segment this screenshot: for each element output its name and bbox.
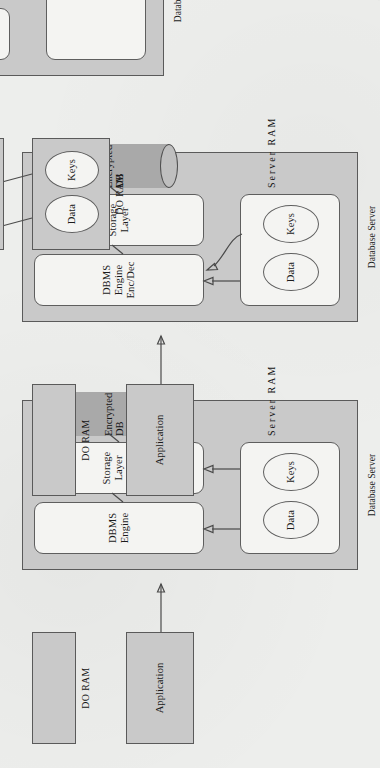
connector-data-to-application-c xyxy=(0,214,36,230)
application-box-c: Application Enc/Dec xyxy=(0,138,4,250)
panel-application-level: Data Keys DO RAM Application Enc/Dec xyxy=(14,16,366,256)
application-label-a: Application xyxy=(154,633,166,743)
do-ram-label-c: DO RAM xyxy=(114,138,125,250)
panel-database-level: DO RAM Application DBMS Engine Enc/Dec S… xyxy=(14,266,366,502)
connector-ram-to-engine-a xyxy=(204,524,242,534)
ram-oval-data-b: Data xyxy=(263,253,319,291)
dbms-engine-label-a: DBMS Engine xyxy=(107,503,131,553)
dbms-engine-box-c: DBMS Engine xyxy=(0,8,10,60)
ram-oval-data-label-a: Data xyxy=(285,502,297,538)
database-server-label-b: Database Server xyxy=(366,152,377,322)
do-ram-label-b: DO RAM xyxy=(80,384,91,496)
do-ram-box-b xyxy=(32,384,76,496)
connector-app-to-server-b xyxy=(152,322,170,384)
ram-oval-data-label-b: Data xyxy=(285,254,297,290)
do-ram-label-a: DO RAM xyxy=(80,632,91,744)
do-ram-oval-data-c: Data xyxy=(45,195,99,233)
dbms-engine-sub-b: Enc/Dec xyxy=(125,262,136,299)
application-box-a: Application xyxy=(126,632,194,744)
do-ram-box-a xyxy=(32,632,76,744)
dbms-engine-box-b: DBMS Engine Enc/Dec xyxy=(34,254,204,306)
server-ram-box-c xyxy=(46,0,146,60)
ram-oval-data-a: Data xyxy=(263,501,319,539)
dbms-engine-label-wrap-b: DBMS Engine Enc/Dec xyxy=(101,255,136,305)
figure-rotated-canvas: DO RAM Application DBMS Engine Storage L… xyxy=(14,12,366,756)
panel-storage-level: DO RAM Application DBMS Engine Storage L… xyxy=(14,514,366,750)
do-ram-box-c: Data Keys xyxy=(32,138,110,250)
database-server-label-a: Database Server xyxy=(366,400,377,570)
do-ram-oval-keys-c: Keys xyxy=(45,151,99,189)
application-label-b: Application xyxy=(154,385,166,495)
database-server-label-c: Database Server xyxy=(172,0,183,76)
do-ram-oval-keys-label-c: Keys xyxy=(66,152,78,188)
connector-keys-to-application-c xyxy=(0,170,36,186)
do-ram-oval-data-label-c: Data xyxy=(66,196,78,232)
connector-app-to-server-a xyxy=(152,570,170,632)
application-box-b: Application xyxy=(126,384,194,496)
dbms-engine-box-a: DBMS Engine xyxy=(34,502,204,554)
dbms-engine-label-b: DBMS Engine xyxy=(101,265,124,295)
